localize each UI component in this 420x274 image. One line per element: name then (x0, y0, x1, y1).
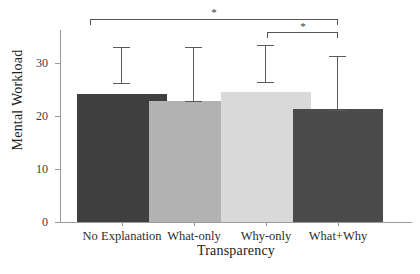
x-tick-what-plus-why (338, 222, 339, 226)
bracket2-right-tick (337, 32, 338, 38)
errorbar-cap-lower-what-only (185, 101, 202, 102)
x-axis-title: Transparency (60, 243, 412, 259)
x-tick-no-explanation (122, 222, 123, 226)
errorbar-line-what-only (193, 47, 194, 101)
bracket2-horizontal-line (267, 32, 338, 33)
errorbar-cap-lower-why-only (257, 82, 274, 83)
errorbar-line-what-plus-why (337, 56, 338, 110)
x-tick-why-only (266, 222, 267, 226)
x-tick-what-only (194, 222, 195, 226)
x-axis-line (60, 222, 412, 223)
errorbar-line-why-only (265, 45, 266, 82)
y-tick-20 (55, 116, 60, 117)
bracket2-left-tick (267, 32, 268, 38)
bracket1-left-tick (90, 19, 91, 25)
errorbar-cap-upper-what-only (185, 47, 202, 48)
bracket2-star-label: * (288, 22, 318, 30)
x-tick-label-what-plus-why: What+Why (288, 229, 388, 243)
bar-chart-figure: * * 30 20 10 0 Mental Workload No Explan… (0, 0, 420, 274)
y-axis-line (60, 30, 61, 223)
bracket1-right-tick (337, 19, 338, 25)
y-tick-30 (55, 63, 60, 64)
errorbar-line-no-explanation (121, 47, 122, 83)
y-axis-title: Mental Workload (10, 30, 26, 170)
y-tick-label-0: 0 (22, 216, 48, 228)
errorbar-cap-lower-what-plus-why (329, 110, 346, 111)
bar-what-plus-why (293, 109, 383, 222)
errorbar-cap-upper-what-plus-why (329, 56, 346, 57)
y-tick-10 (55, 169, 60, 170)
errorbar-cap-lower-no-explanation (113, 83, 130, 84)
errorbar-cap-upper-why-only (257, 45, 274, 46)
bracket1-star-label: * (199, 8, 229, 16)
errorbar-cap-upper-no-explanation (113, 47, 130, 48)
